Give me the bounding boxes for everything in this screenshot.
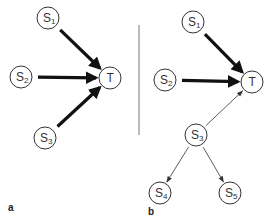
node-s3: S3 (185, 124, 207, 146)
edge-s3-to-s4-weak (167, 147, 189, 182)
node-label: T (107, 71, 115, 85)
edge-s3-to-t-weak (206, 91, 242, 125)
edge-s2-to-t-strong (182, 80, 238, 81)
edge-s1-to-t-strong (205, 34, 242, 72)
edge-s3-to-s5-weak (203, 147, 223, 182)
edge-s3-to-t-strong (57, 87, 99, 126)
network-diagram: S1S2TS3 a S1S2TS3S4S5 b (0, 0, 271, 224)
node-t: T (99, 67, 121, 89)
node-s2: S2 (154, 69, 176, 91)
panel-a-label: a (8, 202, 14, 213)
panel-a: S1S2TS3 a (8, 7, 121, 213)
node-s1: S1 (37, 7, 59, 29)
node-s3: S3 (34, 127, 56, 149)
node-s1: S1 (182, 11, 204, 33)
node-s5: S5 (219, 182, 241, 204)
panel-b-edges (167, 34, 243, 182)
edge-s1-to-t-strong (60, 30, 100, 68)
panel-b: S1S2TS3S4S5 b (148, 11, 263, 217)
node-s4: S4 (149, 182, 171, 204)
panel-b-label: b (148, 206, 154, 217)
panel-a-edges (38, 30, 100, 127)
node-s2: S2 (10, 66, 32, 88)
edge-s2-to-t-strong (38, 77, 96, 78)
panel-b-nodes: S1S2TS3S4S5 (149, 11, 263, 204)
node-label: T (249, 75, 257, 89)
node-t: T (241, 71, 263, 93)
